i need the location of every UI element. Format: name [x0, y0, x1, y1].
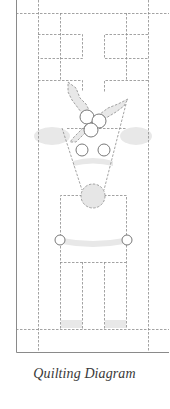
quilting-lines: [16, 0, 169, 352]
diagram-caption: Quilting Diagram: [0, 366, 169, 382]
circles: [55, 110, 132, 245]
mouth: [73, 158, 113, 166]
left-eye: [76, 144, 88, 156]
left-hoof: [61, 320, 82, 328]
left-hand: [55, 235, 65, 245]
right-hoof: [105, 320, 126, 328]
right-hand: [122, 235, 132, 245]
right-ear: [120, 127, 152, 145]
quilting-diagram: [0, 0, 169, 360]
nose: [81, 184, 105, 208]
arms-band: [62, 238, 124, 247]
berry-3: [84, 123, 98, 137]
outer-frame: [17, 0, 170, 353]
right-eye: [98, 144, 110, 156]
